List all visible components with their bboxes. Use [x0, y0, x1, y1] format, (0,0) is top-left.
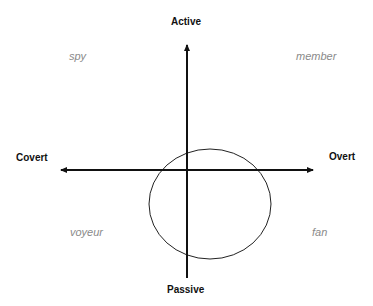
axis-label-active: Active: [171, 16, 201, 27]
overlap-circle: [149, 149, 271, 259]
quadrant-label-spy: spy: [69, 50, 86, 62]
axis-label-passive: Passive: [167, 284, 204, 295]
axis-label-covert: Covert: [16, 152, 48, 163]
quadrant-diagram: [0, 0, 373, 306]
quadrant-label-voyeur: voyeur: [70, 226, 103, 238]
axis-label-overt: Overt: [329, 151, 355, 162]
quadrant-label-member: member: [296, 50, 336, 62]
quadrant-label-fan: fan: [312, 226, 327, 238]
